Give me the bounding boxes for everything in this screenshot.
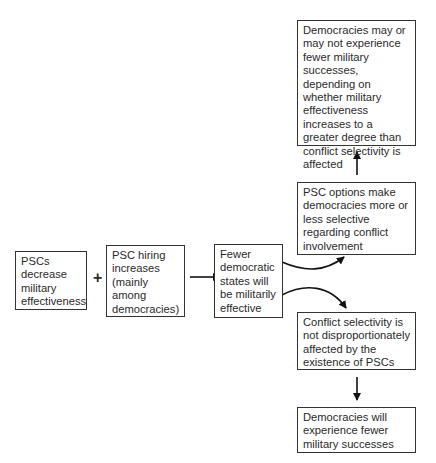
node-selectivity-change: PSC options make democracies more or les…	[297, 182, 416, 255]
node-fewer-effective: Fewer democratic states will be militari…	[214, 244, 283, 318]
curved-arrow-to-selectivity-unaffected	[282, 288, 346, 308]
plus-symbol: +	[93, 269, 102, 287]
node-fewer-successes: Democracies will experience fewer milita…	[297, 407, 416, 453]
node-psc-decrease: PSCs decrease military effectiveness	[15, 251, 87, 310]
node-selectivity-unaffected: Conflict selectivity is not disproportio…	[297, 312, 416, 370]
node-psc-hiring: PSC hiring increases (mainly among democ…	[106, 245, 185, 317]
curved-arrow-to-selectivity-change	[282, 257, 344, 269]
node-may-or-may-not: Democracies may or may not experience fe…	[297, 20, 416, 146]
